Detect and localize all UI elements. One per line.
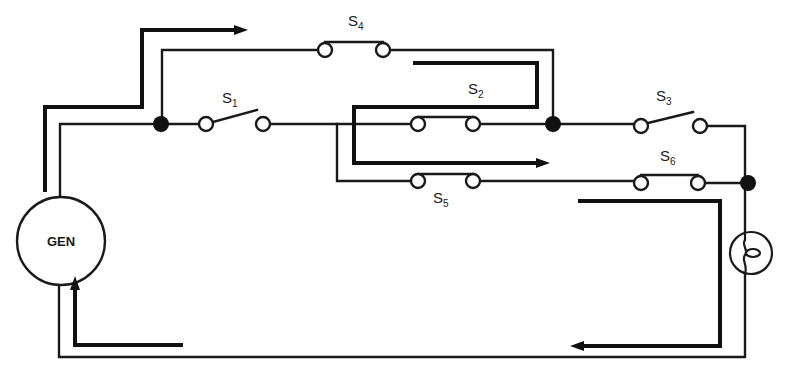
switch-s5-contact-right	[466, 174, 480, 188]
switch-s4-label: S4	[348, 12, 364, 32]
wire-gen-to-main	[60, 124, 160, 198]
switch-s5: S5	[411, 174, 480, 209]
switch-s2-contact-left	[411, 117, 425, 131]
junction-node-left	[153, 116, 169, 132]
switch-s3-contact-right	[693, 119, 707, 133]
junction-node-middle	[545, 116, 561, 132]
switch-s5-contact-left	[411, 174, 425, 188]
switch-s4-contact-left	[318, 43, 332, 57]
arrow-right-icon	[536, 158, 550, 168]
switch-s6-contact-left	[634, 176, 648, 190]
switch-s3-label: S3	[656, 87, 672, 107]
arrow-right-icon	[234, 25, 248, 35]
switch-s5-label: S5	[433, 189, 449, 209]
switch-s6: S6	[634, 147, 705, 190]
flow-arrow-top-path	[45, 30, 236, 192]
wire-lower-branch	[337, 124, 410, 181]
switch-s6-contact-right	[691, 176, 705, 190]
switch-s6-label: S6	[660, 147, 676, 167]
switch-s1-contact-left	[199, 117, 213, 131]
wire-top-branch-left	[162, 50, 317, 124]
switch-s2-contact-right	[466, 117, 480, 131]
switch-s3-blade	[648, 112, 693, 123]
switch-s3: S3	[634, 87, 707, 133]
arrow-left-icon	[570, 341, 584, 351]
flow-arrow-middle-path	[354, 63, 538, 163]
switch-s1: S1	[199, 89, 270, 131]
lamp-circle	[730, 232, 772, 274]
flow-arrows	[45, 25, 720, 351]
wires	[59, 50, 745, 357]
wire-s3-to-right	[708, 126, 745, 183]
generator-label: GEN	[47, 234, 75, 249]
circuit-diagram: S1 S4 S2 S3 S5 S6 GEN	[0, 0, 787, 384]
switch-s3-contact-left	[634, 119, 648, 133]
flow-arrow-return-path	[75, 288, 183, 345]
flow-arrow-right-path	[578, 201, 720, 346]
lamp	[730, 232, 772, 274]
switch-s1-label: S1	[222, 89, 238, 109]
generator: GEN	[17, 197, 105, 285]
switch-s4: S4	[318, 12, 390, 57]
switch-s2-label: S2	[468, 80, 484, 100]
switch-s1-contact-right	[256, 117, 270, 131]
switch-s1-blade	[213, 110, 257, 122]
switch-s4-contact-right	[376, 43, 390, 57]
junction-node-right	[740, 175, 756, 191]
